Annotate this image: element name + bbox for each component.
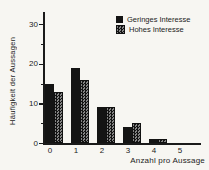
legend-label-geringes-interesse: Geringes Interesse (127, 16, 190, 24)
bar-hohes-interesse-cat0 (54, 92, 63, 143)
x-tick-label-4: 4 (145, 146, 163, 155)
legend-swatch-checker-icon (116, 25, 125, 34)
y-major-tick (39, 143, 43, 144)
x-tick-label-5: 5 (171, 146, 189, 155)
y-major-tick (39, 24, 43, 25)
bar-geringes-interesse-cat4 (149, 139, 158, 143)
x-tick-label-0: 0 (41, 146, 59, 155)
bar-geringes-interesse-cat2 (97, 107, 106, 143)
y-tick-label: 30 (22, 21, 38, 29)
y-major-tick (39, 64, 43, 65)
bar-geringes-interesse-cat3 (123, 127, 132, 143)
legend-item-geringes-interesse: Geringes Interesse (116, 15, 190, 24)
bar-hohes-interesse-cat3 (132, 123, 141, 143)
y-minor-tick (41, 123, 43, 124)
bar-hohes-interesse-cat2 (106, 107, 115, 143)
y-tick-label: 10 (22, 100, 38, 108)
bar-geringes-interesse-cat0 (45, 84, 54, 143)
bar-hohes-interesse-cat4 (158, 139, 167, 143)
bar-hohes-interesse-cat1 (80, 80, 89, 143)
x-tick-label-3: 3 (119, 146, 137, 155)
y-tick-label: 20 (22, 60, 38, 68)
bar-chart-figure: Häufigkeit der Aussagen 0102030 012345 A… (0, 0, 209, 170)
bar-geringes-interesse-cat1 (71, 68, 80, 143)
x-tick-label-2: 2 (93, 146, 111, 155)
legend: Geringes Interesse Hohes Interesse (116, 15, 190, 35)
y-axis-title: Häufigkeit der Aussagen (7, 25, 17, 137)
x-tick-label-1: 1 (67, 146, 85, 155)
legend-item-hohes-interesse: Hohes Interesse (116, 25, 190, 34)
y-tick-label: 0 (22, 140, 38, 148)
legend-label-hohes-interesse: Hohes Interesse (129, 26, 184, 34)
x-axis-line (43, 143, 201, 145)
y-major-tick (39, 103, 43, 104)
y-minor-tick (41, 84, 43, 85)
y-minor-tick (41, 44, 43, 45)
legend-swatch-solid-icon (116, 16, 123, 23)
x-axis-title: Anzahl pro Aussage (130, 156, 205, 165)
